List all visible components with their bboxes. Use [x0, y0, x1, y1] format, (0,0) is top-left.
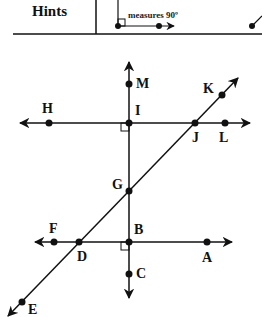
point-J [192, 120, 199, 127]
point-D [76, 239, 83, 246]
label-L: L [219, 131, 228, 145]
point-F [51, 239, 58, 246]
label-H: H [42, 102, 53, 116]
label-G: G [112, 178, 123, 192]
label-E: E [28, 303, 37, 317]
point-H [46, 120, 53, 127]
label-F: F [49, 222, 58, 236]
label-C: C [136, 267, 146, 281]
point-G [126, 188, 133, 195]
label-I: I [135, 104, 140, 118]
line-KE-down [8, 191, 129, 316]
label-A: A [202, 251, 212, 265]
point-I [126, 120, 133, 127]
label-K: K [203, 82, 214, 96]
point-K [219, 92, 226, 99]
point-B [126, 239, 133, 246]
hint-caption: measures 90º [128, 10, 178, 20]
label-J: J [192, 131, 199, 145]
point-L [222, 120, 229, 127]
point-E [19, 299, 26, 306]
label-B: B [134, 223, 143, 237]
point-C [126, 271, 133, 278]
label-D: D [77, 250, 87, 264]
point-M [126, 81, 133, 88]
point-A [204, 239, 211, 246]
next-hint-icon-partial [249, 16, 262, 29]
label-M: M [136, 77, 149, 91]
hints-title: Hints [32, 3, 67, 20]
geometry-diagram [0, 0, 262, 317]
